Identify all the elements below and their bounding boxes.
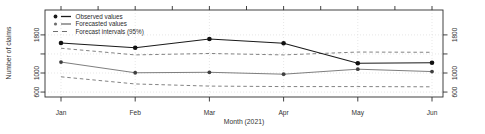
y-tick-label-left: 1000 bbox=[33, 65, 40, 80]
chart-canvas: JanFebMarAprMayJun6006001000100018001800… bbox=[0, 0, 485, 134]
forecast-data-point bbox=[59, 60, 63, 64]
series-interval-line bbox=[61, 77, 432, 87]
observed-data-point bbox=[356, 61, 361, 66]
forecast-data-point bbox=[430, 70, 434, 74]
legend-point-sample bbox=[54, 15, 58, 19]
y-axis-title: Number of claims bbox=[5, 27, 12, 80]
observed-data-point bbox=[281, 41, 286, 46]
forecast-chart-window: JanFebMarAprMayJun6006001000100018001800… bbox=[0, 0, 485, 134]
x-tick-label: Mar bbox=[204, 109, 216, 116]
y-tick-label-left: 600 bbox=[33, 86, 40, 97]
x-tick-label: May bbox=[352, 109, 365, 117]
y-tick-label-left: 1800 bbox=[33, 27, 40, 42]
legend-label: Forecasted values bbox=[76, 20, 127, 27]
y-tick-label-right: 600 bbox=[451, 86, 458, 97]
x-tick-label: Feb bbox=[130, 109, 142, 116]
legend-point-sample bbox=[54, 22, 57, 25]
legend-label: Observed values bbox=[76, 13, 123, 20]
observed-data-point bbox=[430, 60, 435, 65]
series-observed-line bbox=[61, 39, 432, 63]
observed-data-point bbox=[59, 41, 64, 46]
y-tick-label-right: 1000 bbox=[451, 65, 458, 80]
x-tick-label: Jun bbox=[427, 109, 438, 116]
forecast-data-point bbox=[208, 70, 212, 74]
forecast-data-point bbox=[356, 67, 360, 71]
series-forecast-line bbox=[61, 62, 432, 74]
observed-data-point bbox=[133, 45, 138, 50]
legend-label: Forecast intervals (95%) bbox=[76, 28, 144, 36]
x-tick-label: Jan bbox=[56, 109, 67, 116]
forecast-data-point bbox=[133, 71, 137, 75]
y-tick-label-right: 1800 bbox=[451, 27, 458, 42]
forecast-data-point bbox=[282, 72, 286, 76]
observed-data-point bbox=[207, 37, 212, 42]
x-axis-title: Month (2021) bbox=[45, 118, 443, 125]
x-tick-label: Apr bbox=[278, 109, 289, 117]
series-interval-line bbox=[61, 48, 432, 55]
